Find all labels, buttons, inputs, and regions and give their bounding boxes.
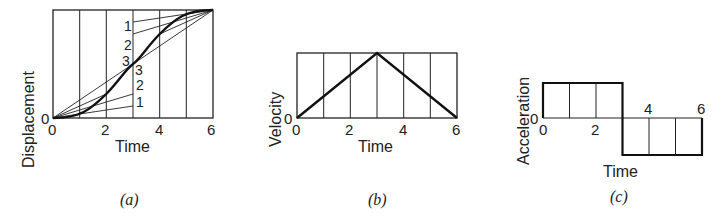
tick-6-a: 6 bbox=[207, 121, 215, 138]
figure: 1 2 3 3 2 1 0 0 2 4 6 Time Displacement … bbox=[0, 0, 714, 224]
tick-6-b: 6 bbox=[452, 121, 460, 138]
label-2-lower: 2 bbox=[136, 77, 144, 93]
label-3-lower: 3 bbox=[135, 62, 143, 78]
label-1-upper: 1 bbox=[124, 18, 132, 34]
tick-4-c: 4 bbox=[644, 100, 652, 117]
tick-2-b: 2 bbox=[345, 121, 353, 138]
label-1-lower: 1 bbox=[136, 94, 144, 110]
y-axis-label-c: Acceleration bbox=[515, 77, 532, 165]
tick-6-c: 6 bbox=[697, 100, 705, 117]
caption-a: (a) bbox=[120, 191, 139, 209]
y-axis-label-b: Velocity bbox=[267, 92, 284, 147]
tick-4-a: 4 bbox=[155, 121, 163, 138]
x-axis-label-b: Time bbox=[358, 138, 393, 155]
panel-a: 1 2 3 3 2 1 0 0 2 4 6 Time Displacement … bbox=[20, 10, 215, 209]
tick-0-a: 0 bbox=[48, 121, 56, 138]
caption-c: (c) bbox=[610, 188, 628, 206]
tick-2-c: 2 bbox=[591, 121, 599, 138]
y-axis-label-a: Displacement bbox=[20, 71, 37, 168]
panel-b: 0 0 2 4 6 Time Velocity (b) bbox=[267, 53, 460, 209]
tick-4-b: 4 bbox=[399, 121, 407, 138]
caption-b: (b) bbox=[368, 191, 387, 209]
x-axis-label-a: Time bbox=[115, 138, 150, 155]
x-axis-label-c: Time bbox=[603, 163, 638, 180]
label-2-upper: 2 bbox=[124, 37, 132, 53]
tick-0-b: 0 bbox=[292, 121, 300, 138]
acceleration-line bbox=[543, 83, 702, 155]
label-3-upper: 3 bbox=[122, 53, 130, 69]
panel-c: 0 0 2 4 6 Time Acceleration (c) bbox=[515, 77, 705, 206]
tick-0-c: 0 bbox=[539, 121, 547, 138]
grid-lines-b bbox=[324, 53, 431, 118]
tick-2-a: 2 bbox=[101, 121, 109, 138]
